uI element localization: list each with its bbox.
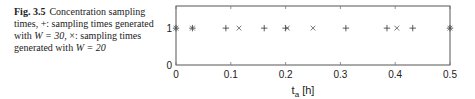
sampling-times-chart: 00.10.20.30.40.501 ta [h] [0,0,475,99]
y-tick-label: 0 [166,60,172,71]
plus-marker [282,25,288,31]
axis-ticks: 00.10.20.30.40.501 [166,6,457,80]
x-tick-label: 0.1 [224,69,238,80]
x-tick-label: 0.2 [279,69,293,80]
data-markers [173,25,453,31]
x-tick-label: 0 [173,69,179,80]
plus-marker [410,25,416,31]
plus-marker [384,25,390,31]
cross-marker [394,26,399,31]
cross-marker [311,26,316,31]
x-tick-label: 0.4 [388,69,402,80]
x-tick-label: 0.3 [333,69,347,80]
cross-marker [237,26,242,31]
plot-frame [176,6,450,65]
plus-marker [261,25,267,31]
x-axis-label: ta [h] [292,84,315,99]
plus-marker [223,25,229,31]
y-tick-label: 1 [166,23,172,34]
plus-marker [343,25,349,31]
x-tick-label: 0.5 [443,69,457,80]
